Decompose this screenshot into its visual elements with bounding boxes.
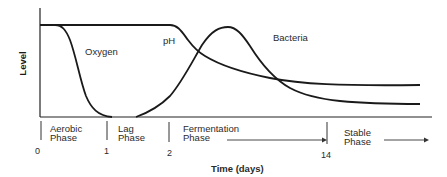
lag-phase-label-2: Phase	[118, 133, 145, 143]
bacteria-label: Bacteria	[273, 33, 308, 43]
fermentation-arrow	[227, 138, 327, 143]
aerobic-phase-label-2: Phase	[50, 133, 77, 143]
stable-phase-label-2: Phase	[344, 137, 371, 147]
oxygen-label: Oxygen	[85, 47, 118, 57]
x-tick-14: 14	[321, 150, 331, 160]
oxygen-curve	[40, 25, 112, 117]
x-tick-0: 0	[35, 146, 40, 156]
x-tick-1: 1	[104, 146, 109, 156]
ph-label: pH	[163, 36, 175, 46]
x-tick-2: 2	[167, 148, 172, 158]
x-axis-label: Time (days)	[211, 164, 264, 174]
stable-arrow	[384, 138, 429, 143]
fermentation-phase-label-2: Phase	[183, 133, 210, 143]
chart-canvas	[0, 0, 447, 177]
y-axis-label: Level	[17, 46, 28, 82]
